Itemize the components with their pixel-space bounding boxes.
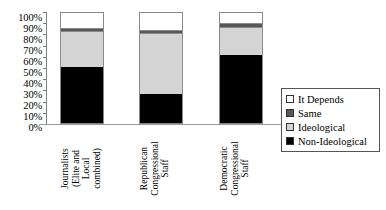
y-tick-label: 40% — [0, 79, 42, 89]
x-label-line: Congressional — [150, 141, 160, 195]
y-tick-label: 10% — [0, 112, 42, 122]
bar-segment-ideological — [219, 27, 263, 55]
stacked-bar-chart: 100% 90% 80% 70% 60% 50% 40% 30% 20% 10%… — [0, 0, 386, 210]
legend-label: Same — [298, 108, 321, 119]
legend-label: It Depends — [298, 94, 344, 105]
bar-segment-same — [219, 23, 263, 26]
bar-segment-ideological — [60, 31, 104, 67]
bar-segment-same — [139, 30, 183, 33]
x-axis-label-journalists: Journalists (Elite and Local combined) — [60, 127, 104, 210]
legend-swatch-icon — [286, 137, 294, 145]
x-label-line: combined) — [92, 148, 102, 189]
bar-segment-non-ideological — [219, 55, 263, 124]
y-tick-label: 100% — [0, 13, 42, 23]
legend-label: Non-Ideological — [298, 136, 367, 147]
x-label-line: Local — [81, 158, 91, 180]
y-tick-label: 80% — [0, 35, 42, 45]
legend-item-non-ideological[interactable]: Non-Ideological — [286, 134, 375, 148]
x-label-line: Staff — [240, 159, 250, 177]
y-tick-label: 0% — [0, 123, 42, 133]
bar-column[interactable] — [139, 12, 183, 124]
x-axis-line — [40, 124, 283, 125]
x-label-line: Congressional — [230, 141, 240, 195]
legend-item-same[interactable]: Same — [286, 106, 375, 120]
chart-legend: It Depends Same Ideological Non-Ideologi… — [281, 88, 380, 152]
bar-column[interactable] — [60, 12, 104, 124]
bar-segment-non-ideological — [60, 67, 104, 124]
x-label-line: Democratic — [219, 146, 229, 190]
bar-segment-same — [60, 28, 104, 31]
y-axis-labels: 100% 90% 80% 70% 60% 50% 40% 30% 20% 10%… — [0, 6, 42, 130]
bar-column[interactable] — [219, 12, 263, 124]
legend-item-it-depends[interactable]: It Depends — [286, 92, 375, 106]
x-label-line: Journalists — [60, 148, 70, 189]
legend-item-ideological[interactable]: Ideological — [286, 120, 375, 134]
x-label-line: Republican — [139, 147, 149, 190]
x-label-line: Staff — [160, 159, 170, 177]
bar-segment-ideological — [139, 33, 183, 93]
x-axis-label-democratic-staff: Democratic Congressional Staff — [219, 127, 263, 210]
x-label-line: (Elite and — [71, 150, 81, 187]
y-tick-label: 60% — [0, 57, 42, 67]
plot-area — [47, 12, 279, 124]
legend-swatch-icon — [286, 95, 294, 103]
bar-segment-it-depends — [60, 12, 104, 28]
bar-segment-it-depends — [139, 12, 183, 30]
bar-segment-it-depends — [219, 12, 263, 23]
x-axis-label-republican-staff: Republican Congressional Staff — [139, 127, 183, 210]
legend-swatch-icon — [286, 109, 294, 117]
y-tick-label: 70% — [0, 46, 42, 56]
y-tick-label: 30% — [0, 90, 42, 100]
legend-swatch-icon — [286, 123, 294, 131]
y-tick-label: 20% — [0, 101, 42, 111]
y-tick-label: 50% — [0, 68, 42, 78]
legend-label: Ideological — [298, 122, 345, 133]
x-axis-labels: Journalists (Elite and Local combined) R… — [47, 127, 279, 210]
y-tick-label: 90% — [0, 24, 42, 34]
bar-segment-non-ideological — [139, 94, 183, 124]
